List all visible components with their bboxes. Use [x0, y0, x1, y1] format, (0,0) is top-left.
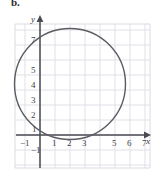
y-tick-label-2: 2	[31, 110, 36, 120]
y-tick-label-neg1: −1	[31, 145, 41, 155]
y-tick-label-7: 7	[31, 35, 36, 45]
y-tick-label-1: 1	[32, 124, 37, 134]
coordinate-plane: x y −1 1 2 3 5 6 7 7 5 4 3 2 1 −1	[0, 0, 161, 175]
x-tick-label-5: 5	[112, 138, 117, 148]
y-tick-label-4: 4	[31, 80, 36, 90]
y-tick-label-3: 3	[31, 95, 36, 105]
x-tick-label-2: 2	[67, 138, 72, 148]
y-tick-label-5: 5	[31, 65, 36, 75]
x-tick-label-1: 1	[52, 138, 57, 148]
figure-panel: b.	[0, 0, 161, 175]
x-tick-label-6: 6	[127, 138, 132, 148]
x-tick-label-7: 7	[142, 138, 147, 148]
y-axis-label: y	[30, 14, 35, 24]
x-tick-label-3: 3	[82, 138, 87, 148]
x-tick-label-neg1: −1	[20, 138, 30, 148]
